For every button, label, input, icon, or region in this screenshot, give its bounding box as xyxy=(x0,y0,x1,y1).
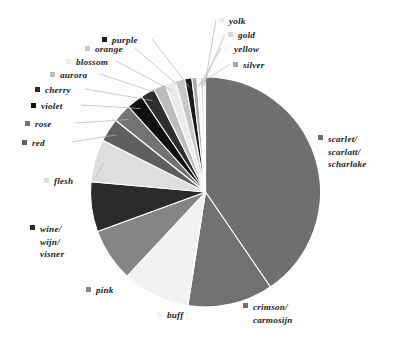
slice-label-crimson-line2: carmosijn xyxy=(253,315,293,325)
slice-label-gold[interactable]: gold xyxy=(228,30,255,42)
swatch-red xyxy=(22,140,27,145)
pie-chart-page: scarlet/scarlatt/scharlake crimson/carmo… xyxy=(0,0,396,344)
slice-label-flesh[interactable]: flesh xyxy=(44,176,73,188)
swatch-violet xyxy=(31,103,36,108)
swatch-purple xyxy=(102,37,107,42)
swatch-yolk xyxy=(219,18,224,23)
swatch-cherry xyxy=(35,87,40,92)
swatch-aurora xyxy=(50,72,55,77)
slice-label-wine-line2: wijn/ xyxy=(40,237,60,247)
slice-label-red[interactable]: red xyxy=(22,138,45,150)
swatch-yellow xyxy=(224,46,229,51)
pie-chart-svg xyxy=(0,0,396,344)
slice-label-buff[interactable]: buff xyxy=(157,310,183,322)
slice-label-scarlet-line1: scarlet/ xyxy=(328,134,357,144)
slice-label-yellow[interactable]: yellow xyxy=(224,44,259,56)
swatch-gold xyxy=(228,32,233,37)
slice-label-cherry-text: cherry xyxy=(45,85,71,97)
swatch-orange xyxy=(85,46,90,51)
slice-label-blossom[interactable]: blossom xyxy=(66,57,108,69)
swatch-scarlet xyxy=(318,135,323,140)
slice-label-scarlet-line2: scarlatt/ xyxy=(328,147,360,157)
slice-label-red-text: red xyxy=(32,138,45,150)
slice-label-aurora[interactable]: aurora xyxy=(50,70,87,82)
slice-label-violet-text: violet xyxy=(41,101,63,113)
swatch-blossom xyxy=(66,59,71,64)
slice-label-blossom-text: blossom xyxy=(76,57,108,69)
slice-label-rose[interactable]: rose xyxy=(25,119,52,131)
slice-label-pink[interactable]: pink xyxy=(86,285,114,297)
swatch-silver xyxy=(233,62,238,67)
slice-label-wine-line3: visner xyxy=(40,249,64,259)
swatch-buff xyxy=(157,312,162,317)
swatch-rose xyxy=(25,121,30,126)
slice-label-crimson[interactable]: crimson/carmosijn xyxy=(243,301,293,326)
slice-label-yolk[interactable]: yolk xyxy=(219,16,246,28)
slice-label-wine[interactable]: wine/wijn/visner xyxy=(30,223,64,261)
leader-line xyxy=(152,39,190,87)
slice-label-cherry[interactable]: cherry xyxy=(35,85,71,97)
slice-label-aurora-text: aurora xyxy=(60,70,87,82)
leader-line xyxy=(205,20,216,86)
slice-label-purple-text: purple xyxy=(112,35,138,47)
swatch-pink xyxy=(86,287,91,292)
slice-label-yolk-text: yolk xyxy=(229,16,246,28)
leader-line xyxy=(85,89,152,101)
slice-label-purple[interactable]: purple xyxy=(102,35,138,47)
slice-label-violet[interactable]: violet xyxy=(31,101,63,113)
swatch-crimson xyxy=(243,303,248,308)
slice-label-scarlet[interactable]: scarlet/scarlatt/scharlake xyxy=(318,133,367,171)
leader-line xyxy=(100,74,163,95)
slice-label-crimson-line1: crimson/ xyxy=(253,302,288,312)
slice-label-scarlet-line3: scharlake xyxy=(328,159,367,169)
swatch-flesh xyxy=(44,178,49,183)
slice-label-gold-text: gold xyxy=(238,30,255,42)
pie-slices-group xyxy=(91,77,321,307)
slice-label-yellow-text: yellow xyxy=(234,44,259,56)
slice-label-rose-text: rose xyxy=(35,119,52,131)
slice-label-wine-line1: wine/ xyxy=(40,224,61,234)
slice-label-silver[interactable]: silver xyxy=(233,60,265,72)
swatch-wine xyxy=(30,225,35,230)
slice-label-silver-text: silver xyxy=(243,60,265,72)
slice-label-pink-text: pink xyxy=(96,285,114,297)
leader-line xyxy=(116,61,173,91)
slice-label-buff-text: buff xyxy=(167,310,183,322)
slice-label-flesh-text: flesh xyxy=(54,176,73,188)
